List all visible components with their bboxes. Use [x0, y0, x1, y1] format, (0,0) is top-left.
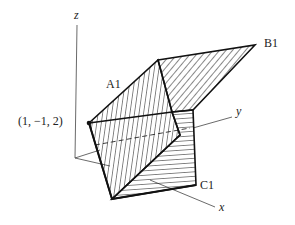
z-axis	[75, 25, 77, 158]
plane-b	[158, 45, 255, 112]
a1-label: A1	[106, 77, 121, 92]
point-marker	[87, 121, 92, 126]
3d-planes-diagram	[0, 0, 295, 225]
c1-label: C1	[200, 178, 214, 193]
point-label: (1, −1, 2)	[18, 114, 63, 129]
y-axis	[193, 117, 232, 128]
y-axis-hidden	[75, 150, 100, 158]
x-axis-label: x	[219, 200, 224, 215]
b1-label: B1	[264, 36, 278, 51]
z-axis-label: z	[74, 8, 79, 23]
y-axis-label: y	[236, 104, 241, 119]
